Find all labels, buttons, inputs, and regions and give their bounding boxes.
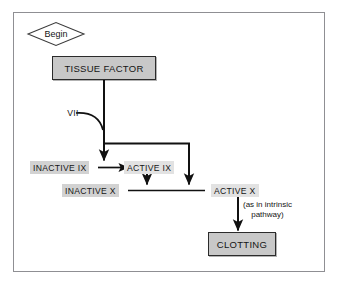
annotation-intrinsic-pathway-line2: pathway): [243, 210, 292, 220]
node-inactive-ix-label: INACTIVE IX: [33, 163, 86, 173]
annotation-intrinsic-pathway: (as in intrinsic pathway): [243, 200, 292, 220]
node-active-ix: ACTIVE IX: [124, 161, 174, 174]
node-inactive-ix: INACTIVE IX: [30, 161, 89, 174]
node-clotting: CLOTTING: [208, 232, 276, 256]
node-active-x-label: ACTIVE X: [214, 186, 256, 196]
node-tissue-factor-label: TISSUE FACTOR: [64, 63, 143, 74]
diagram-canvas: Begin TISSUE FACTOR VII INACTIVE IX ACTI…: [0, 0, 341, 284]
edge-label-factor-vii-text: VII: [67, 108, 78, 118]
node-active-x: ACTIVE X: [211, 184, 259, 197]
node-tissue-factor: TISSUE FACTOR: [52, 56, 156, 80]
diagram-frame: [13, 12, 325, 272]
begin-node: Begin: [28, 22, 84, 46]
edge-label-factor-vii: VII: [64, 107, 82, 119]
node-inactive-x-label: INACTIVE X: [65, 186, 116, 196]
node-active-ix-label: ACTIVE IX: [127, 163, 171, 173]
node-clotting-label: CLOTTING: [217, 239, 267, 250]
annotation-intrinsic-pathway-line1: (as in intrinsic: [243, 200, 292, 210]
begin-label: Begin: [28, 22, 84, 46]
node-inactive-x: INACTIVE X: [62, 184, 119, 197]
